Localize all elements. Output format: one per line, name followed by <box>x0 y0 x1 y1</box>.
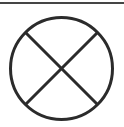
figure-panel <box>0 0 124 127</box>
crossed-circle-figure <box>0 0 124 127</box>
